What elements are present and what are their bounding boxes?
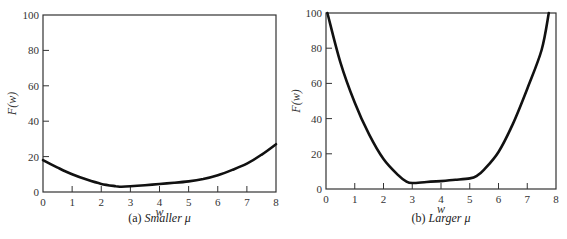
y-tick-label: 0 (34, 186, 40, 198)
x-tick-label: 3 (410, 193, 416, 205)
x-tick-label: 3 (128, 196, 134, 208)
y-tick-label: 80 (28, 44, 40, 56)
x-tick-label: 0 (323, 193, 329, 205)
x-tick-label: 0 (40, 196, 46, 208)
y-axis-label: F(w) (289, 89, 303, 113)
x-tick-label: 1 (69, 196, 75, 208)
x-tick-label: 2 (99, 196, 105, 208)
y-tick-label: 60 (311, 77, 323, 89)
y-tick-label: 40 (28, 115, 40, 127)
panel-caption: (a) Smaller μ (128, 211, 191, 225)
y-tick-label: 100 (23, 9, 40, 21)
y-tick-label: 80 (311, 42, 323, 54)
y-tick-label: 100 (306, 7, 323, 19)
y-tick-label: 0 (317, 183, 323, 195)
figure: 012345678020406080100wF(w)(a) Smaller μ … (0, 0, 567, 239)
x-tick-label: 5 (186, 196, 192, 208)
y-tick-label: 40 (311, 113, 323, 125)
x-tick-label: 1 (352, 193, 358, 205)
x-tick-label: 6 (496, 193, 502, 205)
curve-line (327, 13, 548, 183)
y-axis-label: F(w) (5, 92, 19, 116)
panel-a-smaller-mu: 012345678020406080100wF(w)(a) Smaller μ (5, 9, 279, 225)
y-tick-label: 20 (311, 148, 323, 160)
panel-caption: (b) Larger μ (412, 211, 471, 225)
x-tick-label: 2 (381, 193, 387, 205)
y-tick-label: 60 (28, 80, 40, 92)
x-tick-label: 7 (244, 196, 250, 208)
x-tick-label: 6 (215, 196, 221, 208)
x-tick-label: 7 (525, 193, 531, 205)
x-tick-label: 8 (553, 193, 559, 205)
y-tick-label: 20 (28, 151, 40, 163)
panel-b-larger-mu: 012345678020406080100wF(w)(b) Larger μ (289, 7, 559, 225)
curve-line (43, 144, 276, 187)
x-tick-label: 5 (467, 193, 473, 205)
x-tick-label: 8 (273, 196, 279, 208)
